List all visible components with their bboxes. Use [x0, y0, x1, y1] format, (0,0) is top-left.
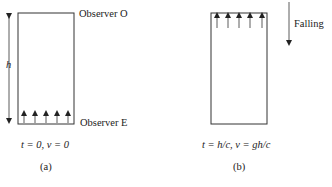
- diagram-canvas: [0, 0, 332, 187]
- falling-label: Falling: [294, 19, 324, 30]
- caption-b: (b): [233, 162, 245, 173]
- condition-b: t = h/c, v = gh/c: [202, 140, 270, 151]
- elevator-box-a: [18, 13, 74, 124]
- height-label: h: [6, 60, 11, 71]
- elevator-box-b: [211, 13, 267, 124]
- light-arrows-a-icon: [24, 113, 68, 123]
- observer-o-label: Observer O: [79, 9, 128, 20]
- observer-e-label: Observer E: [80, 118, 128, 129]
- condition-a: t = 0, v = 0: [21, 140, 69, 151]
- caption-a: (a): [40, 162, 52, 173]
- light-arrows-b-icon: [217, 15, 262, 28]
